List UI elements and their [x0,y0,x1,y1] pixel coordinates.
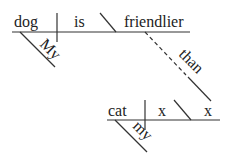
sub-complement-divider [174,100,191,120]
comparative-connector: than [176,45,207,76]
sub-complement: x [204,102,212,119]
sub-subject-modifier: my [129,117,156,144]
main-subject: dog [14,13,38,31]
sub-verb: x [158,102,166,119]
main-subject-modifier: My [36,35,64,63]
sub-subject: cat [108,102,127,119]
comparative-solid-line [188,77,211,101]
main-predicate-divider [100,13,116,32]
main-verb: is [74,13,85,30]
main-predicate-adjective: friendlier [124,13,184,30]
sentence-diagram: dog is friendlier My than cat x x my [0,0,225,161]
